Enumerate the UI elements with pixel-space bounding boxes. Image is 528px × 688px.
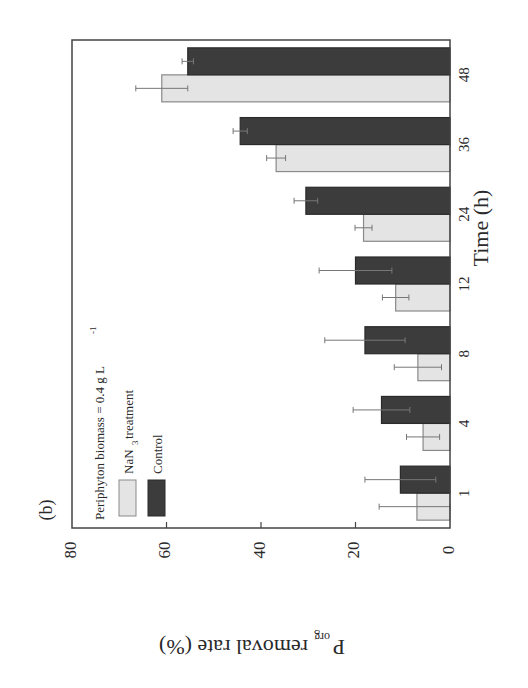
y-axis-title-sub: org (314, 630, 330, 644)
bar-nan3 (276, 145, 450, 172)
y-axis-title-main: P (333, 635, 345, 660)
time-tick-label: 48 (456, 67, 472, 82)
bar-control (240, 118, 450, 145)
bar-group-24h (294, 187, 450, 241)
bar-control (306, 187, 450, 214)
legend-entry-nan3-sub: 3 (130, 440, 140, 445)
time-axis-labels: 14812243648 (456, 67, 472, 497)
value-tick-label: 0 (439, 546, 458, 555)
bar-nan3 (162, 75, 450, 102)
bar-group-1h (365, 466, 450, 520)
bar-group-4h (353, 396, 450, 450)
bar-control (188, 48, 450, 75)
bar-chart: 020406080 14812243648 (b) Time (h) P org… (0, 0, 528, 688)
legend: Periphyton biomass = 0.4 g L -1 NaN 3 tr… (88, 327, 165, 521)
bar-group-48h (136, 48, 450, 102)
legend-entry-nan3-main: NaN (121, 449, 136, 474)
legend-swatch-nan3 (119, 480, 136, 516)
value-tick-label: 20 (344, 542, 363, 559)
value-tick-label: 40 (250, 542, 269, 559)
time-tick-label: 4 (456, 419, 472, 427)
bar-nan3 (364, 214, 450, 241)
legend-title-superscript: -1 (88, 327, 98, 335)
legend-entry-nan3-rest: treatment (121, 390, 136, 439)
panel-label: (b) (36, 500, 57, 521)
bar-group-8h (325, 327, 450, 381)
time-tick-label: 8 (456, 350, 472, 358)
legend-title: Periphyton biomass = 0.4 g L (92, 366, 107, 520)
value-tick-label: 60 (155, 542, 174, 559)
y-axis-title: P org removal rate (%) (159, 630, 345, 660)
x-axis-title: Time (h) (468, 190, 493, 267)
bar-group-36h (233, 118, 450, 172)
time-tick-label: 36 (456, 137, 472, 153)
y-axis-title-rest: removal rate (%) (159, 635, 308, 660)
value-tick-label: 80 (61, 542, 80, 559)
bar-groups (136, 48, 450, 520)
legend-entry-control: Control (150, 434, 165, 474)
chart-figure: 020406080 14812243648 (b) Time (h) P org… (0, 0, 528, 688)
time-tick-label: 12 (456, 277, 472, 292)
legend-swatch-control (148, 480, 165, 516)
time-tick-label: 1 (456, 489, 472, 497)
bar-group-12h (319, 257, 450, 311)
